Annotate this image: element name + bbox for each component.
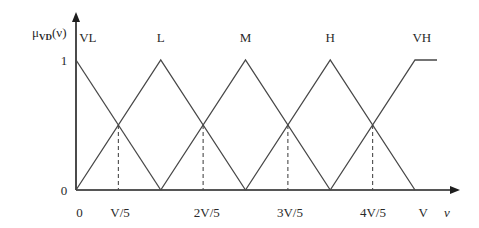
y-tick-labels: 10 xyxy=(61,53,68,198)
y-axis-label-base: μ xyxy=(32,25,39,40)
y-axis-label-suffix: (ν) xyxy=(52,25,67,40)
crossover-dashes xyxy=(118,125,372,190)
x-tick-label-5: 4V/5 xyxy=(360,205,386,220)
series-lines xyxy=(76,60,437,190)
y-axis-label: μVD(ν) xyxy=(32,25,67,42)
x-axis-arrowhead xyxy=(450,186,460,194)
y-tick-label-0: 0 xyxy=(61,183,68,198)
x-tick-labels: 0V/52V/53V/54V/5V xyxy=(76,205,428,220)
series-label-l: L xyxy=(157,30,165,45)
x-tick-label-1: 0 xyxy=(76,205,83,220)
x-tick-label-2: V/5 xyxy=(110,205,130,220)
x-axis-label: ν xyxy=(444,205,450,220)
series-label-m: M xyxy=(240,30,252,45)
series-labels: VLLMHVH xyxy=(79,30,431,45)
series-m-line xyxy=(161,60,331,190)
series-h-line xyxy=(246,60,416,190)
series-label-vh: VH xyxy=(412,30,431,45)
membership-function-chart: μVD(ν) ν VLLMHVH 0V/52V/53V/54V/5V 10 xyxy=(0,0,479,228)
y-axis-arrowhead xyxy=(72,12,80,22)
series-vh-line xyxy=(330,60,437,190)
x-tick-label-6: V xyxy=(418,205,428,220)
y-axis-label-subscript: VD xyxy=(39,32,52,42)
y-tick-label-1: 1 xyxy=(61,53,68,68)
x-tick-label-3: 2V/5 xyxy=(194,205,220,220)
series-label-h: H xyxy=(326,30,335,45)
series-label-vl: VL xyxy=(79,30,96,45)
series-l-line xyxy=(76,60,246,190)
x-tick-label-4: 3V/5 xyxy=(277,205,303,220)
